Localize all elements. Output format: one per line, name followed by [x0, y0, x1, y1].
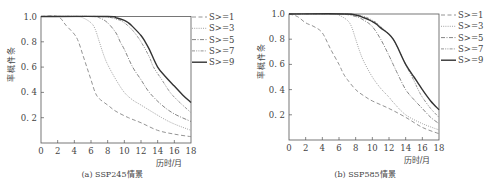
series-line-Sge1	[289, 14, 439, 134]
series-line-Sge1	[41, 16, 191, 137]
y-tick-label: 0. 4	[21, 87, 37, 97]
y-tick-label: 0. 4	[269, 85, 285, 95]
x-tick-label: 16	[169, 146, 180, 156]
x-tick-label: 16	[417, 143, 428, 153]
x-tick-label: 18	[434, 143, 445, 153]
svg-text:概: 概	[256, 62, 266, 70]
x-tick-label: 2	[55, 146, 60, 156]
y-tick-label: 0. 2	[21, 113, 37, 123]
x-tick-label: 4	[72, 146, 77, 156]
y-tick-label: 1.0	[271, 9, 285, 19]
svg-text:件: 件	[256, 53, 266, 61]
x-tick-label: 10	[367, 143, 378, 153]
y-tick-label: 0. 6	[21, 62, 37, 72]
series-line-Sge5	[289, 14, 439, 124]
x-axis-label: 历时/月	[156, 158, 183, 168]
x-tick-label: 2	[303, 143, 308, 153]
legend-label: S>=5	[209, 35, 234, 45]
series-line-Sge7	[41, 16, 191, 112]
panel-a: 0246810121416180. 20. 40. 60. 81.0条件概率历时…	[0, 0, 250, 183]
svg-text:率: 率	[256, 71, 266, 79]
x-tick-label: 4	[320, 143, 325, 153]
panel-caption: (b) SSP585情景	[334, 169, 395, 179]
y-axis-label: 条件概率	[256, 44, 266, 79]
x-tick-label: 0	[38, 146, 43, 156]
series-line-Sge9	[289, 14, 439, 110]
chart-a: 0246810121416180. 20. 40. 60. 81.0条件概率历时…	[0, 0, 250, 183]
panel-caption: (a) SSP245情景	[81, 169, 142, 179]
series-line-Sge5	[41, 16, 191, 121]
x-tick-label: 8	[105, 146, 110, 156]
legend-label: S>=9	[458, 55, 483, 65]
legend-label: S>=1	[458, 10, 483, 20]
x-tick-label: 14	[400, 143, 411, 153]
x-axis-label: 历时/月	[404, 155, 431, 165]
y-tick-label: 0. 2	[269, 110, 285, 120]
legend-label: S>=5	[458, 33, 483, 43]
chart-b: 0246810121416180. 20. 40. 60. 81.0条件概率历时…	[250, 0, 499, 183]
x-tick-label: 12	[136, 146, 147, 156]
legend-label: S>=7	[458, 44, 483, 54]
x-tick-label: 8	[353, 143, 358, 153]
svg-text:件: 件	[6, 56, 16, 64]
x-tick-label: 18	[186, 146, 197, 156]
x-tick-label: 6	[88, 146, 93, 156]
legend-label: S>=7	[209, 46, 234, 56]
y-tick-label: 0. 8	[21, 37, 37, 47]
legend-label: S>=3	[458, 21, 483, 31]
x-tick-label: 10	[119, 146, 130, 156]
svg-text:条: 条	[256, 44, 266, 52]
x-tick-label: 12	[384, 143, 395, 153]
legend-label: S>=1	[209, 12, 234, 22]
legend: S>=1S>=3S>=5S>=7S>=9	[192, 12, 234, 67]
svg-text:条: 条	[6, 47, 16, 55]
legend-label: S>=9	[209, 57, 234, 67]
x-tick-label: 6	[336, 143, 341, 153]
x-tick-label: 0	[286, 143, 291, 153]
y-axis-label: 条件概率	[6, 47, 16, 82]
series-line-Sge3	[289, 14, 439, 130]
y-tick-label: 0. 6	[269, 59, 285, 69]
y-tick-label: 0. 8	[269, 34, 285, 44]
legend-label: S>=3	[209, 23, 234, 33]
x-tick-label: 14	[152, 146, 163, 156]
y-tick-label: 1.0	[23, 12, 37, 22]
svg-text:率: 率	[6, 74, 16, 82]
svg-text:概: 概	[6, 65, 16, 73]
legend: S>=1S>=3S>=5S>=7S>=9	[441, 10, 483, 65]
panel-b: 0246810121416180. 20. 40. 60. 81.0条件概率历时…	[250, 0, 499, 183]
